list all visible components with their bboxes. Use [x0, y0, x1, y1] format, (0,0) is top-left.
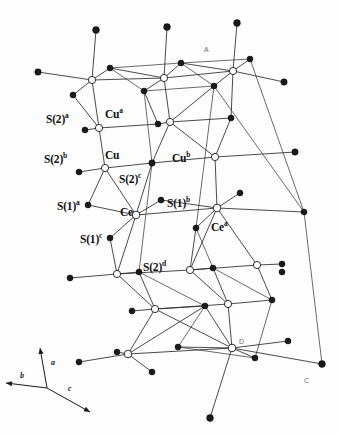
atom-node-filled	[237, 190, 243, 196]
bond	[117, 274, 155, 309]
bond	[250, 59, 304, 212]
bond	[164, 78, 170, 122]
atom-node-filled	[285, 338, 291, 344]
atom-node-filled	[292, 149, 298, 155]
atom-node-filled	[247, 56, 253, 62]
atom-node-filled	[158, 197, 164, 203]
atom-node-open	[132, 211, 140, 219]
atom-node-filled	[193, 225, 199, 231]
atom-node-filled	[82, 127, 88, 133]
atom-node-filled	[149, 369, 155, 375]
bond	[228, 304, 232, 348]
bond	[110, 68, 164, 78]
atom-node-filled	[107, 235, 113, 241]
atom-node-filled	[114, 349, 120, 355]
atom-label-cea: Cea	[211, 220, 228, 233]
bond	[99, 124, 158, 128]
bond	[128, 309, 155, 354]
corner-label-D: D	[239, 338, 244, 345]
bond	[144, 91, 152, 163]
atom-node-open	[166, 118, 173, 125]
atom-label-superscript: a	[224, 219, 228, 228]
bond	[215, 157, 217, 208]
bond	[92, 30, 96, 80]
bond	[79, 354, 128, 362]
bond	[152, 122, 170, 163]
atom-label-cub: Cub	[172, 151, 190, 164]
atom-label-cua: Cua	[105, 107, 123, 120]
atom-node-filled	[202, 303, 208, 309]
bond	[155, 309, 232, 348]
bond	[181, 63, 233, 71]
atom-node-filled	[319, 361, 326, 368]
atom-node-filled	[164, 24, 171, 31]
bond	[190, 265, 257, 270]
atom-label-superscript: a	[76, 198, 80, 207]
bond	[210, 348, 232, 418]
atom-node-filled	[35, 69, 41, 75]
atom-node-filled	[252, 355, 258, 361]
atom-label-base: Ce	[120, 206, 133, 218]
bond	[139, 272, 205, 306]
bond	[196, 228, 213, 268]
axis-label-a: a	[51, 358, 55, 367]
atom-node-filled	[228, 115, 234, 121]
atom-node-open	[186, 266, 193, 273]
atom-node-filled	[149, 160, 155, 166]
axis-label-c: c	[68, 384, 72, 393]
atom-node-filled	[210, 265, 216, 271]
bond	[215, 152, 295, 157]
atom-label-base: S(2)	[119, 173, 138, 185]
atom-label-ce: Ce	[120, 207, 133, 219]
atom-label-base: S(2)	[143, 261, 162, 273]
atom-node-open	[224, 300, 231, 307]
atom-label-superscript: b	[63, 151, 67, 160]
atom-node-filled	[281, 79, 287, 85]
bond	[144, 86, 214, 91]
bond	[214, 86, 304, 212]
atom-node-open	[160, 74, 167, 81]
atom-node-open	[213, 204, 221, 212]
atom-label-base: Cu	[105, 108, 119, 120]
bond	[164, 27, 167, 78]
bond	[304, 212, 322, 364]
corner-label-C: C	[304, 377, 309, 384]
corner-label-A: A	[204, 46, 209, 53]
bond	[110, 238, 117, 274]
bond	[128, 354, 152, 372]
bond	[70, 274, 117, 278]
atom-label-superscript: b	[186, 195, 190, 204]
atom-label-s1a: S(1)a	[57, 199, 80, 212]
atom-node-filled	[279, 269, 285, 275]
bond	[128, 306, 205, 354]
bond	[170, 118, 231, 122]
atom-label-s2c: S(2)c	[119, 172, 141, 185]
atom-node-filled	[207, 415, 214, 422]
atom-label-s2a: S(2)a	[46, 112, 69, 125]
atom-node-open	[228, 344, 236, 352]
bond	[155, 304, 228, 309]
atom-node-open	[229, 67, 236, 74]
bond	[205, 306, 232, 348]
atom-node-filled	[269, 297, 275, 303]
atom-label-cu: Cu	[105, 150, 119, 162]
atom-label-base: S(1)	[57, 200, 76, 212]
atom-node-filled	[178, 60, 184, 66]
bond	[217, 208, 304, 212]
axis-arrowhead-a	[38, 348, 43, 354]
bond	[105, 163, 152, 168]
bond-network	[38, 23, 322, 418]
atom-node-filled	[155, 121, 161, 127]
atom-node-filled	[107, 65, 113, 71]
atom-node-filled	[301, 209, 307, 215]
bond	[110, 63, 181, 68]
axis-label-b: b	[20, 371, 24, 380]
bond	[233, 23, 237, 71]
atom-label-superscript: b	[186, 150, 190, 159]
bond	[178, 306, 205, 347]
atom-node-filled	[76, 359, 82, 365]
atom-node-filled	[279, 261, 285, 267]
bond	[139, 272, 155, 309]
bond	[190, 270, 228, 304]
atom-nodes	[35, 20, 326, 422]
